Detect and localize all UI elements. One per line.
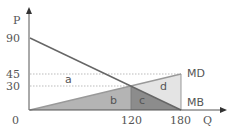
x-axis-label: Q (203, 114, 212, 127)
y-tick-90: 90 (6, 32, 20, 45)
y-axis-arrow-icon (26, 7, 32, 14)
y-tick-30: 30 (6, 80, 20, 93)
x-axis-arrow-icon (220, 107, 227, 113)
x-tick-120: 120 (121, 114, 142, 127)
md-label: MD (187, 67, 205, 80)
origin-label: 0 (12, 114, 19, 127)
region-a-label: a (65, 73, 72, 86)
region-b-label: b (110, 94, 117, 107)
mb-label: MB (187, 96, 204, 109)
region-c-label: c (139, 94, 145, 107)
externality-chart: P Q 90 45 30 0 120 180 MD MB a b c d (0, 0, 231, 131)
x-tick-180: 180 (170, 114, 191, 127)
region-d-label: d (160, 80, 167, 93)
y-axis-label: P (13, 14, 21, 27)
